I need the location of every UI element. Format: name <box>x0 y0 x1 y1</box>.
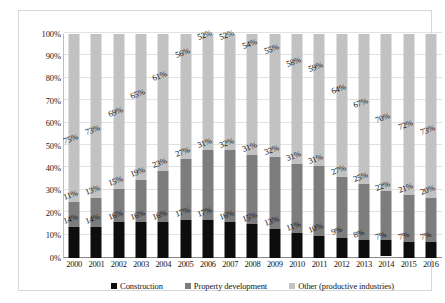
stacked-bar[interactable] <box>69 34 80 258</box>
x-axis: 2000200120022003200420052006200720082009… <box>63 260 442 274</box>
x-axis-tick-label: 2014 <box>378 260 394 269</box>
segment-construction[interactable] <box>314 236 325 258</box>
segment-construction[interactable] <box>91 227 102 258</box>
x-axis-tick-label: 2008 <box>245 260 261 269</box>
legend-label: Construction <box>120 281 163 291</box>
segment-construction[interactable] <box>180 220 191 258</box>
y-axis-tick-label: 10% <box>46 231 61 240</box>
x-axis-tick-label: 2004 <box>155 260 171 269</box>
bar-column <box>108 34 130 258</box>
stacked-bar[interactable] <box>91 34 102 258</box>
legend-item[interactable]: Construction <box>111 281 163 291</box>
segment-other[interactable] <box>225 34 236 150</box>
x-axis-tick-label: 2016 <box>423 260 439 269</box>
segment-other[interactable] <box>69 34 80 202</box>
segment-construction[interactable] <box>336 238 347 258</box>
segment-construction[interactable] <box>158 222 169 258</box>
segment-other[interactable] <box>403 34 414 195</box>
x-axis-tick-label: 2010 <box>289 260 305 269</box>
gridline <box>64 32 442 33</box>
segment-construction[interactable] <box>113 222 124 258</box>
y-axis-tick-label: 60% <box>46 119 61 128</box>
y-axis-tick-label: 100% <box>42 30 61 39</box>
bar-column <box>130 34 152 258</box>
x-axis-tick-label: 2005 <box>178 260 194 269</box>
bar-column <box>331 34 353 258</box>
bar-column <box>375 34 397 258</box>
y-axis-tick-label: 0% <box>50 254 61 263</box>
segment-construction[interactable] <box>202 220 213 258</box>
y-axis-tick-label: 50% <box>46 142 61 151</box>
segment-construction[interactable] <box>225 222 236 258</box>
segment-other[interactable] <box>91 34 102 198</box>
y-axis-tick-label: 20% <box>46 209 61 218</box>
segment-construction[interactable] <box>247 224 258 258</box>
y-axis-tick-label: 40% <box>46 164 61 173</box>
x-axis-tick-label: 2002 <box>111 260 127 269</box>
y-axis-tick-label: 30% <box>46 187 61 196</box>
bar-column <box>152 34 174 258</box>
segment-construction[interactable] <box>292 233 303 258</box>
legend-swatch-icon <box>289 283 295 289</box>
y-axis-tick-label: 80% <box>46 75 61 84</box>
x-axis-tick-label: 2003 <box>133 260 149 269</box>
x-axis-tick-label: 2006 <box>200 260 216 269</box>
x-axis-tick-label: 2000 <box>66 260 82 269</box>
segment-other[interactable] <box>292 34 303 164</box>
segment-construction[interactable] <box>269 229 280 258</box>
stacked-bar[interactable] <box>381 34 392 258</box>
x-axis-tick-label: 2011 <box>312 260 328 269</box>
segment-other[interactable] <box>247 34 258 155</box>
stacked-bar[interactable] <box>358 34 369 258</box>
bar-column <box>420 34 442 258</box>
chart-legend: ConstructionProperty developmentOther (p… <box>63 279 442 293</box>
x-axis-tick-label: 2007 <box>222 260 238 269</box>
segment-other[interactable] <box>425 34 436 198</box>
stacked-bar[interactable] <box>158 34 169 258</box>
chart-frame: 0%10%20%30%40%50%60%70%80%90%100% 14%11%… <box>18 10 432 291</box>
segment-construction[interactable] <box>358 240 369 258</box>
legend-item[interactable]: Other (productive industries) <box>289 281 394 291</box>
legend-label: Property development <box>194 281 267 291</box>
segment-construction[interactable] <box>381 240 392 256</box>
x-axis-tick-label: 2013 <box>356 260 372 269</box>
x-axis-tick-label: 2001 <box>89 260 105 269</box>
segment-construction[interactable] <box>403 242 414 258</box>
segment-other[interactable] <box>314 34 325 166</box>
stacked-bar[interactable] <box>136 34 147 258</box>
segment-other[interactable] <box>158 34 169 171</box>
x-axis-tick-label: 2015 <box>401 260 417 269</box>
stacked-bar[interactable] <box>403 34 414 258</box>
legend-swatch-icon <box>185 283 191 289</box>
chart-figure: 0%10%20%30%40%50%60%70%80%90%100% 14%11%… <box>0 0 445 303</box>
segment-other[interactable] <box>202 34 213 150</box>
segment-other[interactable] <box>358 34 369 184</box>
x-axis-tick-label: 2009 <box>267 260 283 269</box>
segment-construction[interactable] <box>136 222 147 258</box>
segment-construction[interactable] <box>69 227 80 258</box>
stacked-bar[interactable] <box>425 34 436 258</box>
bar-column <box>397 34 419 258</box>
y-axis: 0%10%20%30%40%50%60%70%80%90%100% <box>37 34 61 258</box>
segment-other[interactable] <box>336 34 347 177</box>
segment-other[interactable] <box>136 34 147 180</box>
stacked-bar[interactable] <box>113 34 124 258</box>
x-axis-tick-label: 2012 <box>334 260 350 269</box>
legend-item[interactable]: Property development <box>185 281 267 291</box>
legend-label: Other (productive industries) <box>298 281 394 291</box>
bar-column <box>353 34 375 258</box>
y-axis-tick-label: 70% <box>46 97 61 106</box>
y-axis-tick-label: 90% <box>46 52 61 61</box>
bars-layer: 14%11%75%14%13%73%16%15%69%16%19%65%16%2… <box>63 34 442 258</box>
segment-construction[interactable] <box>425 242 436 258</box>
legend-swatch-icon <box>111 283 117 289</box>
